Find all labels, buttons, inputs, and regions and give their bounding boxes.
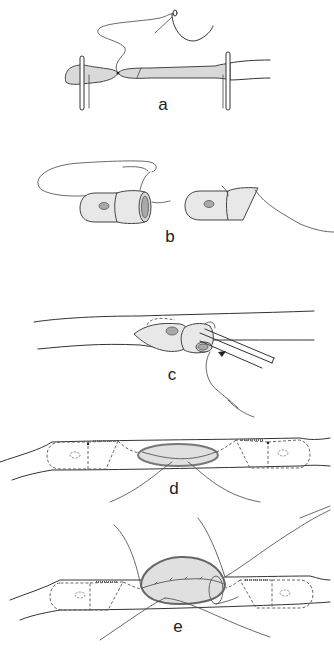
clamp-right xyxy=(226,52,230,110)
dashed-segment-right-2 xyxy=(236,440,268,468)
arrow-icon xyxy=(218,351,226,357)
curved-needle-icon xyxy=(172,14,213,41)
panel-label-b: b xyxy=(165,227,174,246)
vessel-wall-top xyxy=(34,311,314,322)
panel-label-e: e xyxy=(173,617,182,636)
panel-label-a: a xyxy=(158,95,168,114)
clamp-left xyxy=(80,56,84,110)
panel-label-d: d xyxy=(169,479,178,498)
tube-segment xyxy=(118,63,230,80)
dashed-segment-left-1 xyxy=(47,442,88,469)
panel-b: b xyxy=(38,161,334,246)
stump-left xyxy=(65,65,118,84)
panel-c: c xyxy=(34,311,314,408)
suture-thread-left xyxy=(114,525,141,587)
surgical-illustration: a b xyxy=(0,0,334,650)
panel-label-c: c xyxy=(168,365,177,384)
suture-thread xyxy=(98,13,174,72)
vessel-wall-bottom xyxy=(12,465,330,480)
suture-tail xyxy=(255,190,334,232)
dashed-segment-right-1 xyxy=(268,440,310,468)
panel-e: e xyxy=(10,506,330,640)
panel-d: d xyxy=(0,400,330,502)
suture-thread xyxy=(206,352,238,408)
nucleus xyxy=(99,203,109,210)
segment-right-2-cut xyxy=(227,188,259,220)
dashed-segment-left-2 xyxy=(88,441,118,469)
panel-a: a xyxy=(65,10,270,114)
